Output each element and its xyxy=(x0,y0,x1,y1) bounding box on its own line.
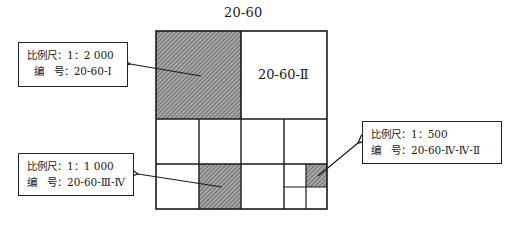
callout-scale-500: 比例尺：1：500 编 号：20-60-Ⅳ-Ⅳ-Ⅱ xyxy=(362,121,502,164)
sheet-II-label: 20-60-Ⅱ xyxy=(258,67,309,82)
callout-scale: 比例尺：1：2 000 xyxy=(27,47,119,63)
callout-scale-1000: 比例尺：1：1 000 编 号：20-60-Ⅲ-Ⅳ xyxy=(18,153,134,196)
sheet-IV-IV-II-shaded xyxy=(306,164,327,187)
arrow-to-callout-3 xyxy=(318,143,358,176)
callout-number: 编 号：20-60-Ⅳ-Ⅳ-Ⅱ xyxy=(371,142,493,158)
callout-scale: 比例尺：1：1 000 xyxy=(27,158,125,174)
callout-scale: 比例尺：1：500 xyxy=(371,126,493,142)
callout-number: 编 号：20-60-Ⅰ xyxy=(27,63,119,79)
callout-scale-2000: 比例尺：1：2 000 编 号：20-60-Ⅰ xyxy=(18,42,128,87)
callout-number: 编 号：20-60-Ⅲ-Ⅳ xyxy=(27,174,125,190)
